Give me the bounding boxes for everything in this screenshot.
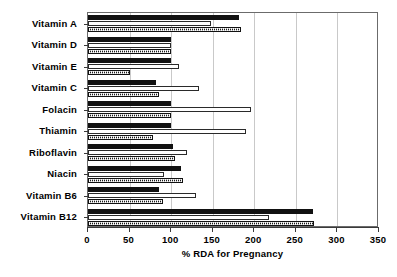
x-axis-tick xyxy=(253,227,254,232)
plot-area xyxy=(87,12,378,227)
bar xyxy=(88,166,181,171)
bar xyxy=(88,43,171,48)
y-axis-category-label: Vitamin B12 xyxy=(21,211,77,222)
x-axis-tick-label: 350 xyxy=(370,234,386,245)
plot-inner xyxy=(88,13,377,226)
y-axis-category-label: Niacin xyxy=(47,168,77,179)
bar xyxy=(88,156,175,161)
bar xyxy=(88,193,196,198)
bar xyxy=(88,86,199,91)
x-axis-tick xyxy=(87,227,88,232)
bar xyxy=(88,58,171,63)
bar xyxy=(88,49,171,54)
x-axis-tick-label: 250 xyxy=(287,234,303,245)
gridline xyxy=(254,13,255,226)
bar xyxy=(88,221,314,226)
x-axis-tick xyxy=(170,227,171,232)
x-axis-tick-label: 100 xyxy=(162,234,178,245)
gridline xyxy=(296,13,297,226)
bar xyxy=(88,199,163,204)
y-axis-category-label: Vitamin C xyxy=(32,82,77,93)
bar xyxy=(88,15,239,20)
bar xyxy=(88,215,269,220)
bar xyxy=(88,27,241,32)
y-axis-category-labels: Vitamin AVitamin DVitamin EVitamin CFola… xyxy=(0,12,82,227)
bar xyxy=(88,172,164,177)
x-axis-title: % RDA for Pregnancy xyxy=(87,248,378,259)
bar xyxy=(88,64,179,69)
bar xyxy=(88,80,156,85)
x-axis-tick xyxy=(129,227,130,232)
x-axis-tick-label: 0 xyxy=(84,234,89,245)
bar xyxy=(88,70,130,75)
gridline xyxy=(337,13,338,226)
y-axis-category-label: Vitamin B6 xyxy=(26,189,77,200)
bar xyxy=(88,144,173,149)
y-axis-category-label: Thiamin xyxy=(39,125,77,136)
bar xyxy=(88,129,246,134)
bar xyxy=(88,187,159,192)
bar xyxy=(88,178,183,183)
x-axis-line xyxy=(87,227,378,228)
bar xyxy=(88,113,171,118)
gridline xyxy=(213,13,214,226)
y-axis-category-label: Vitamin D xyxy=(32,39,77,50)
x-axis-tick xyxy=(378,227,379,232)
y-axis-category-label: Vitamin E xyxy=(32,60,77,71)
bar xyxy=(88,21,211,26)
x-axis-tick-label: 50 xyxy=(123,234,134,245)
bar xyxy=(88,209,313,214)
bar xyxy=(88,135,153,140)
bar xyxy=(88,101,171,106)
bar xyxy=(88,92,159,97)
x-axis-tick xyxy=(212,227,213,232)
bar xyxy=(88,123,171,128)
vitamin-rda-bar-chart: Vitamin AVitamin DVitamin EVitamin CFola… xyxy=(0,0,397,277)
x-axis-tick-label: 300 xyxy=(328,234,344,245)
bar xyxy=(88,107,251,112)
y-axis-category-label: Folacin xyxy=(42,103,77,114)
y-axis-category-label: Riboflavin xyxy=(29,146,77,157)
x-axis-tick xyxy=(295,227,296,232)
bar xyxy=(88,150,187,155)
x-axis-tick xyxy=(336,227,337,232)
y-axis-category-label: Vitamin A xyxy=(32,17,77,28)
x-axis-tick-label: 200 xyxy=(245,234,261,245)
bar xyxy=(88,37,171,42)
x-axis-tick-label: 150 xyxy=(203,234,219,245)
